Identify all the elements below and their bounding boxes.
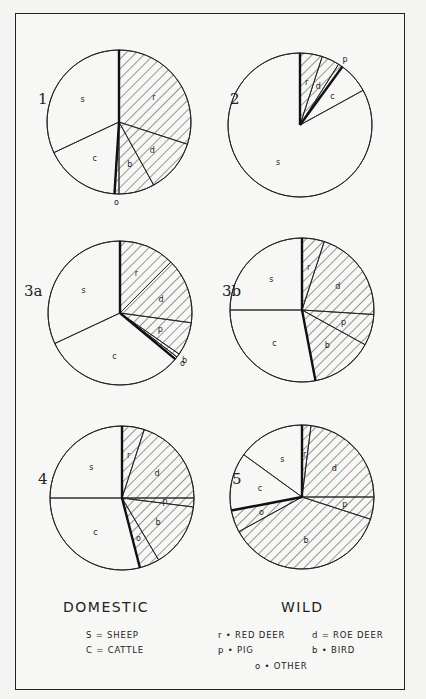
pie-slice-s [50,426,122,498]
legend-bird: b • BIRD [312,645,355,655]
slice-label: c [112,352,116,361]
slice-label: d [335,282,340,291]
slice-label: b [127,160,132,169]
slice-label: b [156,518,161,527]
slice-label: b [304,536,309,545]
slice-label: o [180,359,185,368]
chart-number-label: 3a [24,282,43,300]
legend-red-deer: r • RED DEER [218,630,285,640]
chart-number-label: 2 [230,90,240,108]
slice-label: o [259,508,264,517]
slice-label: s [81,286,85,295]
slice-label: c [272,339,276,348]
slice-label: d [158,295,163,304]
slice-label: d [332,464,337,473]
slice-label: s [280,455,284,464]
slice-label: d [316,82,321,91]
legend-other: o • OTHER [255,661,307,671]
pie-slice-d [302,426,374,497]
pie-chart-3a: rdpbocs3a [24,241,192,385]
slice-label: s [269,275,273,284]
pie-slice-s [244,425,302,497]
pie-chart-4: rdpbocs4 [38,426,194,570]
slice-label: s [89,463,93,472]
legend-domestic-title: DOMESTIC [63,599,149,615]
slice-label: c [93,528,97,537]
slice-label: o [114,198,119,207]
chart-number-label: 3b [222,282,241,300]
slice-label: p [341,318,346,327]
pie-chart-5: rdpbocs5 [230,425,374,569]
legend-sheep: S = SHEEP [86,630,139,640]
pie-charts: rdbocs1rdpcs2rdpbocs3ardpbcs3brdpbocs4rd… [0,0,426,699]
legend-wild-title: WILD [281,599,324,615]
pie-chart-1: rdbocs1 [38,50,191,207]
chart-number-label: 1 [38,90,48,108]
legend-roe-deer: d = ROE DEER [312,630,383,640]
pie-slice-c [54,122,119,194]
slice-label: p [342,500,347,509]
slice-label: s [80,95,84,104]
slice-label: p [342,55,347,64]
legend-pig: p • PIG [218,645,254,655]
slice-label: s [276,158,280,167]
slice-label: b [325,341,330,350]
chart-number-label: 5 [232,470,242,488]
slice-label: c [258,484,262,493]
pie-chart-2: rdpcs2 [228,53,372,197]
legend-cattle: C = CATTLE [86,645,144,655]
slice-label: d [154,469,159,478]
slice-label: o [136,534,141,543]
chart-number-label: 4 [38,470,48,488]
slice-label: d [150,146,155,155]
slice-label: c [330,92,334,101]
slice-label: c [93,154,97,163]
slice-label: p [158,325,163,334]
pie-chart-3b: rdpbcs3b [222,238,374,382]
